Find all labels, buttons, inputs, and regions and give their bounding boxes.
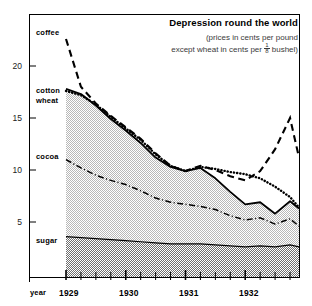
y-axis <box>30 14 37 282</box>
chart-root: Depression round the world (prices in ce… <box>0 0 312 306</box>
plot-canvas <box>0 0 312 306</box>
